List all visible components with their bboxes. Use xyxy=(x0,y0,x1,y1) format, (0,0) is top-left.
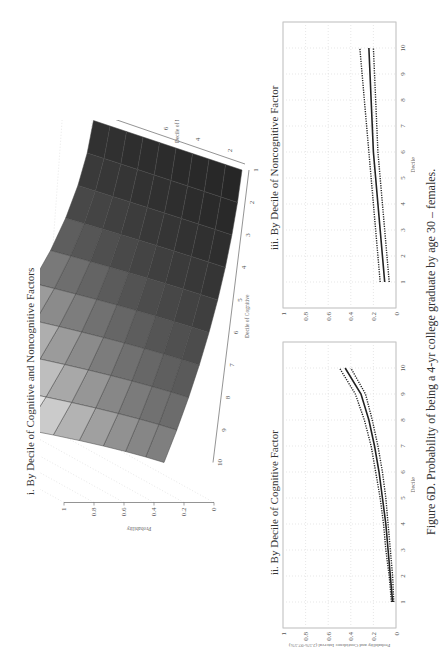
x-tick-label: 6 xyxy=(399,150,407,154)
y-tick-label: 4 xyxy=(194,137,202,141)
svg-text:Probability: Probability xyxy=(127,526,152,532)
y-tick-label: 0 xyxy=(393,312,401,316)
y-tick-label: 0.8 xyxy=(302,632,310,641)
x-tick-label: 3 xyxy=(399,228,407,232)
y-tick-label: 6 xyxy=(162,126,170,130)
x-tick-label: 7 xyxy=(228,363,236,367)
x-tick-label: 1 xyxy=(399,600,407,604)
z-tick-label: 0.8 xyxy=(90,507,98,516)
x-tick-label: 8 xyxy=(224,395,232,399)
x-tick-label: 9 xyxy=(220,428,228,432)
x-tick-label: 4 xyxy=(399,522,407,526)
z-tick-label: 0 xyxy=(210,507,218,511)
line-chart-cognitive: 1234567891000.20.40.60.81DecileProbabili… xyxy=(280,330,415,650)
plot-area xyxy=(283,342,396,628)
x-tick-label: 3 xyxy=(244,233,252,237)
y-tick-label: 0.4 xyxy=(347,312,355,321)
x-tick-label: 10 xyxy=(216,459,224,467)
z-tick-label: 0.6 xyxy=(120,507,128,516)
x-tick-label: 6 xyxy=(399,470,407,474)
rotated-page: i. By Decile of Cognitive and Noncogniti… xyxy=(0,0,443,670)
surface-chart: 00.20.40.60.81Probability12345678910Deci… xyxy=(40,120,265,540)
x-axis-label: Decile xyxy=(410,477,415,493)
x-tick-label: 2 xyxy=(399,574,407,578)
x-tick-label: 8 xyxy=(399,98,407,102)
y-tick-label: 0.8 xyxy=(302,312,310,321)
chart-iii-title: iii. By Decile of Noncognitive Factor xyxy=(268,86,280,250)
x-tick-label: 7 xyxy=(399,124,407,128)
x-tick-label: 1 xyxy=(399,280,407,284)
svg-text:Decile of Cognitive: Decile of Cognitive xyxy=(244,294,250,338)
x-tick-label: 9 xyxy=(399,392,407,396)
x-tick-label: 5 xyxy=(399,176,407,180)
line-chart-noncognitive: 1234567891000.20.40.60.81Decile xyxy=(280,10,415,330)
x-tick-label: 2 xyxy=(248,200,256,204)
y-tick-label: 1 xyxy=(280,632,288,636)
x-tick-label: 4 xyxy=(399,202,407,206)
x-tick-label: 6 xyxy=(232,330,240,334)
y-tick-label: 0.4 xyxy=(347,632,355,641)
y-tick-label: 2 xyxy=(226,148,234,152)
z-tick-label: 0.4 xyxy=(150,507,158,516)
y-axis-label: Probability and Confidence Interval (2.5… xyxy=(288,643,390,648)
figure-caption: Figure 6D. Probability of being a 4-yr c… xyxy=(424,169,439,535)
x-tick-label: 9 xyxy=(399,72,407,76)
chart-ii-title: ii. By Decile of Cognitive Factor xyxy=(268,430,280,575)
svg-text:Decile of Noncognitive: Decile of Noncognitive xyxy=(174,120,180,143)
x-tick-label: 5 xyxy=(236,298,244,302)
y-tick-label: 0.6 xyxy=(325,312,333,321)
y-tick-label: 0.6 xyxy=(325,632,333,641)
x-tick-label: 2 xyxy=(399,254,407,258)
z-tick-label: 0.2 xyxy=(180,507,188,516)
z-tick-label: 1 xyxy=(60,507,68,511)
y-tick-label: 0.2 xyxy=(370,632,378,641)
x-tick-label: 4 xyxy=(240,265,248,269)
x-tick-label: 3 xyxy=(399,548,407,552)
y-tick-label: 0.2 xyxy=(370,312,378,321)
x-tick-label: 7 xyxy=(399,444,407,448)
x-tick-label: 10 xyxy=(399,44,407,52)
x-tick-label: 5 xyxy=(399,496,407,500)
x-axis-label: Decile xyxy=(410,157,415,173)
y-tick-label: 0 xyxy=(393,632,401,636)
x-tick-label: 10 xyxy=(399,364,407,372)
x-tick-label: 8 xyxy=(399,418,407,422)
y-tick-label: 1 xyxy=(280,312,288,316)
x-tick-label: 1 xyxy=(252,168,260,172)
chart-i-title: i. By Decile of Cognitive and Noncogniti… xyxy=(24,268,36,495)
